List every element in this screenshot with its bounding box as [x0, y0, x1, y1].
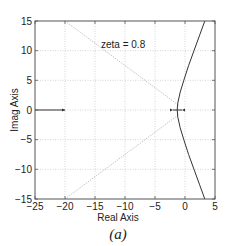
zeta-line-upper [65, 21, 179, 106]
y-tick-label: −5 [21, 134, 33, 145]
y-tick-label: 5 [26, 75, 32, 86]
y-tick-label: 10 [21, 45, 33, 56]
y-tick-label: −15 [15, 194, 32, 205]
zeta-annotation: zeta = 0.8 [101, 39, 146, 50]
arrow-left-segment-icon [62, 108, 65, 111]
x-tick-labels: −25−20−15−10−505 [27, 201, 219, 212]
root-locus-chart: −25−20−15−10−505 −15−10−5051015 zeta = 0… [0, 0, 229, 246]
y-tick-label: −10 [15, 164, 32, 175]
x-tick-label: −15 [87, 201, 104, 212]
y-tick-label: 15 [21, 16, 33, 27]
y-axis-label: Imag Axis [9, 88, 20, 131]
arrow-near-origin-left-icon [170, 108, 173, 111]
x-tick-label: −10 [117, 201, 134, 212]
zeta-line-lower [65, 114, 179, 199]
x-tick-label: −20 [57, 201, 74, 212]
x-tick-label: −5 [149, 201, 161, 212]
x-axis-label: Real Axis [97, 212, 139, 223]
figure-caption: (a) [109, 226, 127, 243]
arrow-near-origin-right-icon [182, 108, 185, 111]
x-tick-label: 5 [212, 201, 218, 212]
x-tick-label: 0 [182, 201, 188, 212]
y-tick-label: 0 [26, 105, 32, 116]
